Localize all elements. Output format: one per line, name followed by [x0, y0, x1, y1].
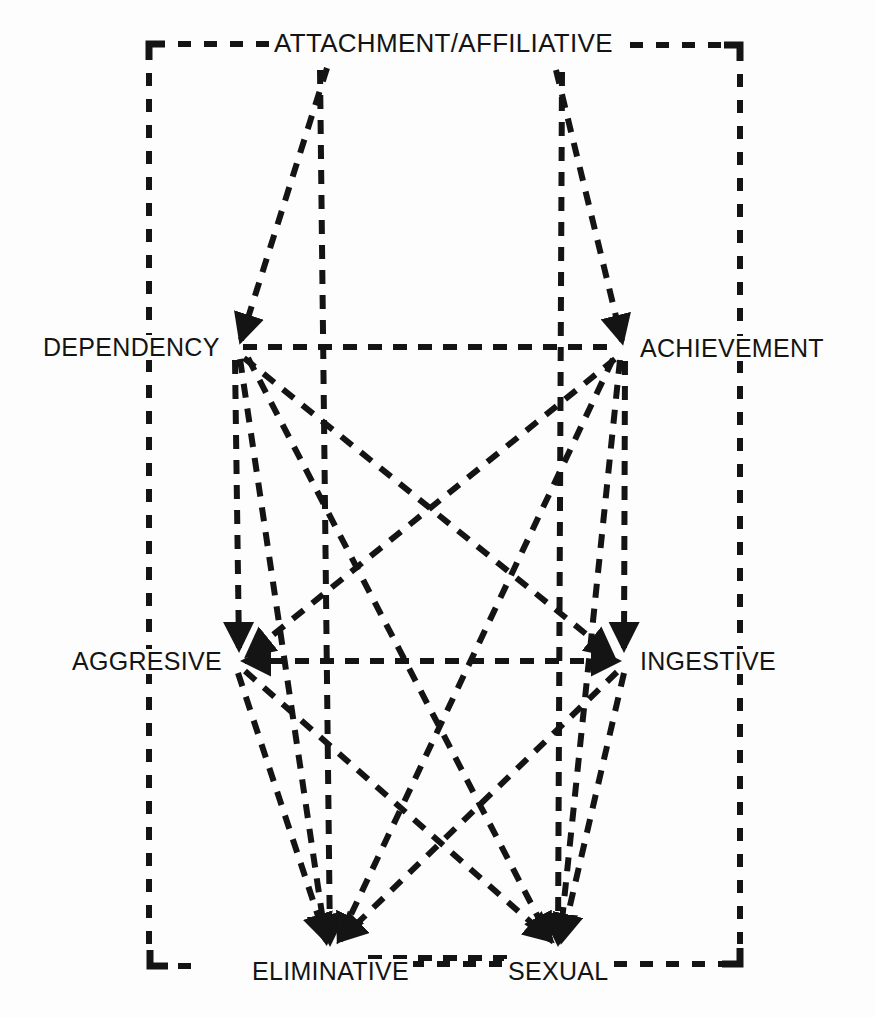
outer-dashed-frame	[149, 44, 740, 966]
node-label-sexual[interactable]: SEXUAL	[504, 959, 612, 984]
diagram-canvas: ATTACHMENT/AFFILIATIVE DEPENDENCY ACHIEV…	[0, 0, 875, 1017]
node-label-eliminative[interactable]: ELIMINATIVE	[248, 959, 413, 984]
node-label-attachment-affiliative[interactable]: ATTACHMENT/AFFILIATIVE	[270, 30, 617, 56]
edge-attachment-achievement	[556, 70, 622, 341]
edge-dependency-sexual	[248, 358, 550, 940]
edge-attachment-sexual	[558, 72, 562, 942]
edge-achievement-sexual	[560, 360, 620, 940]
network-graph	[0, 0, 875, 1017]
frame-corner-bottom-left	[150, 950, 168, 966]
edge-aggresive-eliminative	[238, 673, 326, 940]
edge-achievement-eliminative	[339, 359, 613, 940]
frame-corner-top-right	[724, 45, 740, 61]
edge-aggresive-sexual	[245, 671, 551, 940]
edge-dependency-eliminative	[240, 359, 326, 941]
edge-attachment-dependency	[241, 68, 327, 340]
edge-dependency-aggresive	[235, 360, 239, 648]
node-label-dependency[interactable]: DEPENDENCY	[39, 335, 224, 360]
node-label-achievement[interactable]: ACHIEVEMENT	[636, 336, 828, 361]
node-label-ingestive[interactable]: INGESTIVE	[636, 649, 780, 674]
edge-achievement-ingestive	[624, 361, 625, 648]
node-label-aggresive[interactable]: AGGRESIVE	[68, 649, 226, 674]
edge-attachment-eliminative	[320, 70, 330, 942]
frame-corner-top-left	[149, 44, 165, 60]
edges	[235, 68, 625, 958]
frame-corner-bottom-right	[722, 948, 740, 964]
